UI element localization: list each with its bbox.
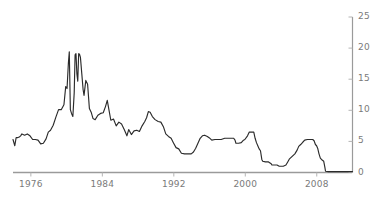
- x-tick-label: 1992: [154, 179, 194, 189]
- chart-container: 0510152025 19761984199220002008: [0, 0, 392, 211]
- x-tick-label: 1976: [11, 179, 51, 189]
- y-tick-label: 5: [358, 135, 364, 145]
- y-tick-label: 25: [358, 11, 370, 21]
- y-tick-label: 20: [358, 42, 370, 52]
- x-tick-label: 1984: [82, 179, 122, 189]
- y-tick-label: 10: [358, 104, 370, 114]
- x-tick-label: 2008: [297, 179, 337, 189]
- y-tick-label: 0: [358, 167, 364, 177]
- series-line-federal-funds-rate: [13, 52, 353, 172]
- y-tick-label: 15: [358, 73, 370, 83]
- x-tick-label: 2000: [225, 179, 265, 189]
